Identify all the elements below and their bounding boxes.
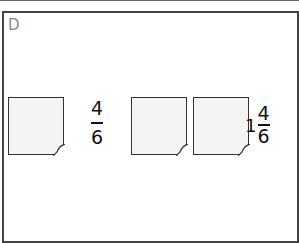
paper-sheet — [8, 97, 64, 155]
numerator: 4 — [91, 99, 103, 118]
paper-sheet — [131, 97, 187, 155]
denominator: 6 — [257, 127, 269, 146]
fraction-bar — [91, 122, 103, 124]
paper-sheet — [193, 97, 249, 155]
fraction-four-sixths: 4 6 — [91, 99, 103, 147]
whole-number: 1 — [245, 115, 256, 136]
numerator: 4 — [257, 104, 269, 123]
top-divider — [0, 0, 299, 1]
option-label: D — [8, 16, 20, 34]
denominator: 6 — [91, 128, 103, 147]
mixed-number: 1 4 6 — [245, 104, 270, 146]
